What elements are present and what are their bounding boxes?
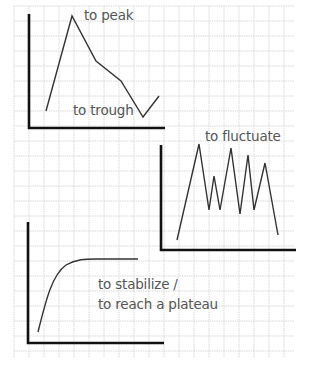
label-to-reach-a-plateau: to reach a plateau <box>98 298 218 312</box>
data-line-fluctuate <box>177 144 278 240</box>
label-to-fluctuate: to fluctuate <box>205 130 281 144</box>
charts-layer <box>28 14 296 343</box>
label-to-trough: to trough <box>73 104 134 118</box>
chart-fluctuate <box>161 144 296 250</box>
label-to-stabilize: to stabilize / <box>98 278 178 292</box>
label-to-peak: to peak <box>84 9 133 23</box>
diagram-canvas <box>0 0 309 369</box>
